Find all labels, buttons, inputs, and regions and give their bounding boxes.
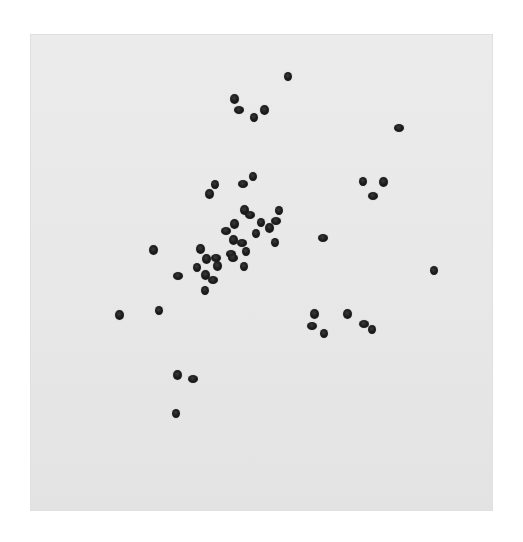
seed <box>230 219 239 229</box>
seed <box>284 72 292 81</box>
seed <box>260 105 269 115</box>
seed <box>149 245 158 255</box>
seed <box>430 266 438 275</box>
seed <box>240 262 248 271</box>
seed <box>249 172 257 181</box>
seed <box>238 180 248 188</box>
seed <box>208 276 218 284</box>
seed <box>318 234 328 242</box>
seed <box>230 94 239 104</box>
seed <box>394 124 404 132</box>
seed <box>343 309 352 319</box>
seed <box>275 206 283 215</box>
seed <box>188 375 198 383</box>
seed <box>213 261 222 271</box>
seed <box>242 247 250 256</box>
seed <box>252 229 260 238</box>
seed <box>173 370 182 380</box>
seed <box>196 244 205 254</box>
seed <box>211 180 219 189</box>
seed <box>310 309 319 319</box>
seed <box>115 310 124 320</box>
seed <box>368 325 376 334</box>
seed <box>201 286 209 295</box>
seed <box>271 238 279 247</box>
seed <box>193 263 201 272</box>
seed <box>173 272 183 280</box>
seed <box>257 218 265 227</box>
seed <box>234 106 244 114</box>
seed <box>379 177 388 187</box>
seed <box>155 306 163 315</box>
seed <box>250 113 258 122</box>
seed <box>245 211 255 219</box>
seed <box>320 329 328 338</box>
seed <box>172 409 180 418</box>
seed <box>205 189 214 199</box>
seed <box>228 254 238 262</box>
seed <box>202 254 211 264</box>
seed <box>265 223 274 233</box>
seed <box>221 227 231 235</box>
seed <box>271 217 281 225</box>
seed <box>368 192 378 200</box>
seed <box>359 177 367 186</box>
seed <box>307 322 317 330</box>
seed <box>237 239 247 247</box>
